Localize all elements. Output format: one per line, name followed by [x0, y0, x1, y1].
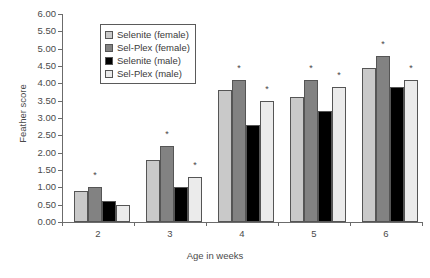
y-axis-tick-mark [58, 153, 62, 154]
bar-chart: Feather score 0.000.501.001.502.002.503.… [0, 0, 430, 278]
significance-asterisk: * [262, 85, 272, 94]
y-axis-tick-mark [58, 14, 62, 15]
bar [88, 187, 102, 222]
legend-item: Selenite (female) [105, 28, 190, 41]
legend-item: Sel-Plex (female) [105, 41, 190, 54]
bar [304, 80, 318, 222]
legend-swatch [105, 70, 113, 78]
x-axis-tick-mark [134, 222, 135, 226]
y-axis-tick-label: 5.00 [26, 44, 56, 54]
legend-label: Sel-Plex (female) [117, 43, 190, 53]
y-axis-tick-mark [58, 118, 62, 119]
legend-label: Sel-Plex (male) [117, 69, 182, 79]
legend-swatch [105, 31, 113, 39]
y-axis-tick-label: 1.00 [26, 183, 56, 193]
bar-group [362, 14, 418, 222]
y-axis-tick-mark [58, 135, 62, 136]
significance-asterisk: * [190, 161, 200, 170]
y-axis-tick-mark [58, 31, 62, 32]
bar [160, 146, 174, 222]
y-axis-tick-label: 3.50 [26, 96, 56, 106]
x-axis-category-label: 6 [366, 228, 406, 239]
y-axis-tick-mark [58, 101, 62, 102]
x-axis-label: Age in weeks [0, 250, 430, 261]
bar [362, 68, 376, 222]
y-axis-tick-label: 4.00 [26, 79, 56, 89]
significance-asterisk: * [334, 71, 344, 80]
bar [404, 80, 418, 222]
bar [174, 187, 188, 222]
y-axis-tick-mark [58, 83, 62, 84]
x-axis-category-label: 2 [78, 228, 118, 239]
bar [218, 90, 232, 222]
y-axis-tick-labels: 0.000.501.001.502.002.503.003.504.004.50… [26, 0, 56, 278]
bar-group [290, 14, 346, 222]
y-axis-tick-label: 2.50 [26, 131, 56, 141]
significance-asterisk: * [378, 40, 388, 49]
bar [116, 205, 130, 222]
legend-label: Selenite (female) [117, 30, 189, 40]
legend-item: Selenite (male) [105, 54, 190, 67]
significance-asterisk: * [90, 171, 100, 180]
y-axis-tick-label: 2.00 [26, 148, 56, 158]
y-axis-tick-mark [58, 49, 62, 50]
bar [290, 97, 304, 222]
x-axis-tick-mark [422, 222, 423, 226]
bar [74, 191, 88, 222]
x-axis-category-label: 5 [294, 228, 334, 239]
significance-asterisk: * [162, 130, 172, 139]
y-axis-tick-label: 1.50 [26, 165, 56, 175]
y-axis-tick-label: 0.00 [26, 217, 56, 227]
significance-asterisk: * [234, 64, 244, 73]
y-axis-tick-mark [58, 187, 62, 188]
bar-group [218, 14, 274, 222]
y-axis-tick-label: 6.00 [26, 9, 56, 19]
x-axis-category-label: 4 [222, 228, 262, 239]
y-axis-tick-label: 5.50 [26, 27, 56, 37]
significance-asterisk: * [306, 64, 316, 73]
y-axis-tick-mark [58, 66, 62, 67]
x-axis-tick-mark [62, 222, 63, 226]
bar [102, 201, 116, 222]
y-axis-line [62, 14, 63, 222]
x-axis-tick-mark [206, 222, 207, 226]
y-axis-tick-label: 4.50 [26, 61, 56, 71]
bar [390, 87, 404, 222]
x-axis-category-label: 3 [150, 228, 190, 239]
significance-asterisk: * [406, 64, 416, 73]
bar [318, 111, 332, 222]
legend-item: Sel-Plex (male) [105, 67, 190, 80]
y-axis-tick-label: 0.50 [26, 200, 56, 210]
bar [146, 160, 160, 222]
legend-swatch [105, 44, 113, 52]
legend-swatch [105, 57, 113, 65]
bar [332, 87, 346, 222]
x-axis-line [62, 222, 422, 223]
chart-legend: Selenite (female)Sel-Plex (female)Seleni… [100, 24, 196, 84]
bar [188, 177, 202, 222]
bar [260, 101, 274, 222]
y-axis-tick-mark [58, 170, 62, 171]
y-axis-tick-label: 3.00 [26, 113, 56, 123]
bar [376, 56, 390, 222]
bar [246, 125, 260, 222]
x-axis-tick-mark [278, 222, 279, 226]
x-axis-tick-mark [350, 222, 351, 226]
y-axis-tick-mark [58, 205, 62, 206]
bar [232, 80, 246, 222]
legend-label: Selenite (male) [117, 56, 181, 66]
